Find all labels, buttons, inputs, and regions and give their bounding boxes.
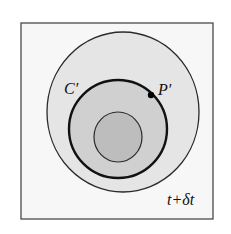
diagram-canvas: C′ P′ t+δt <box>0 0 231 234</box>
label-c-prime: C′ <box>64 80 79 97</box>
label-time: t+δt <box>167 191 195 208</box>
inner-region-circle <box>94 112 142 162</box>
point-p-prime-dot <box>148 92 154 98</box>
label-p-prime: P′ <box>157 81 172 98</box>
